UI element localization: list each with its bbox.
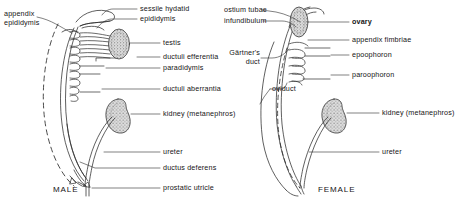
- label-appendix-fimbriae: appendix fimbriae: [352, 36, 411, 44]
- caption-female: FEMALE: [318, 186, 355, 194]
- label-paroophoron: paroophoron: [352, 71, 394, 79]
- label-ureter-female: ureter: [382, 148, 402, 156]
- label-ovary: ovary: [352, 18, 372, 26]
- label-epoophoron: epoophoron: [352, 51, 392, 59]
- label-gartners-duct: Gärtner's duct: [222, 49, 260, 66]
- label-paradidymis: paradidymis: [163, 64, 203, 72]
- label-kidney-metanephros-female: kidney (metanephros): [382, 109, 455, 117]
- label-ductuli-aberrantia: ductuli aberrantia: [163, 85, 221, 93]
- label-ductus-deferens: ductus deferens: [163, 164, 216, 172]
- label-oviduct: oviduct: [272, 85, 296, 93]
- label-testis: testis: [163, 39, 181, 47]
- label-epididymis: epididymis: [140, 15, 175, 23]
- label-ureter-male: ureter: [163, 148, 183, 156]
- label-sessile-hydatid: sessile hydatid: [140, 5, 189, 13]
- male-diagram: [37, 9, 160, 196]
- label-ostium-tubae: ostium tubae: [224, 6, 267, 14]
- caption-male: MALE: [53, 186, 78, 194]
- label-kidney-metanephros-male: kidney (metanephros): [163, 110, 236, 118]
- label-ductuli-efferentia: ductuli efferentia: [163, 53, 218, 61]
- label-prostatic-utricle: prostatic utricle: [163, 184, 214, 192]
- label-infundibulum: infundibulum: [224, 17, 267, 25]
- label-appendix-epididymis: appendix epididymis: [4, 10, 39, 27]
